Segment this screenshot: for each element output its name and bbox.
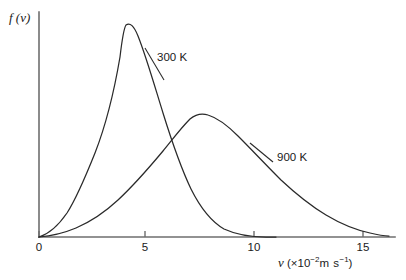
x-axis-label-unit: m s: [319, 257, 339, 269]
x-tick-label-0: 0: [36, 242, 42, 254]
x-tick-label-5: 5: [142, 242, 148, 254]
x-axis-label-variable: v: [278, 255, 284, 270]
x-axis-label-open: (×10: [287, 257, 310, 269]
x-axis-label-exponent-unit: −1: [339, 255, 348, 264]
curve-900k: [39, 114, 389, 237]
series-label-300k: 300 K: [157, 52, 187, 64]
x-axis-label-close: ): [349, 257, 353, 269]
y-axis-label: f (v): [9, 11, 30, 24]
chart-figure: f (v) 0 5 10 15 v (×10−2m s−1) 300 K 900…: [0, 0, 406, 280]
x-tick-label-15: 15: [357, 242, 370, 254]
x-axis-label: v (×10−2m s−1): [278, 256, 352, 270]
x-tick-label-10: 10: [248, 242, 261, 254]
plot-canvas: [0, 0, 406, 280]
series-label-900k: 900 K: [277, 152, 307, 164]
